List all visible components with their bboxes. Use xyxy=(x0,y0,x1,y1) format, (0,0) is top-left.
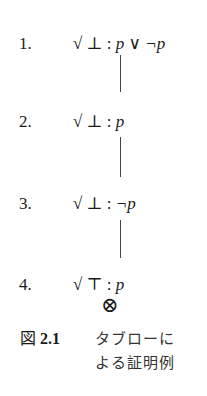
node-formula: √ ⊥ : ¬p xyxy=(73,193,136,215)
caption-line-1: タブローに xyxy=(95,327,175,351)
edge-2-3 xyxy=(120,137,121,177)
truth-sign: ⊥ xyxy=(87,194,103,213)
check-mark-icon: √ xyxy=(73,275,82,294)
caption-prefix: 図 xyxy=(20,329,36,348)
tableau-node-1: 1. √ ⊥ : p ∨ ¬p xyxy=(0,33,207,55)
closed-branch-icon: ⊗ xyxy=(101,294,119,316)
node-formula: √ ⊥ : p ∨ ¬p xyxy=(73,33,165,55)
check-mark-icon: √ xyxy=(73,194,82,213)
formula-text: ¬p xyxy=(116,194,136,213)
formula-text: p ∨ ¬p xyxy=(116,34,165,53)
tableau-node-3: 3. √ ⊥ : ¬p xyxy=(0,193,207,215)
edge-3-4 xyxy=(120,220,121,258)
separator: : xyxy=(107,112,112,131)
node-number: 3. xyxy=(19,193,32,215)
check-mark-icon: √ xyxy=(73,34,82,53)
caption-line-2: よる証明例 xyxy=(95,351,175,375)
separator: : xyxy=(107,194,112,213)
node-number: 4. xyxy=(19,274,32,296)
edge-1-2 xyxy=(120,55,121,92)
separator: : xyxy=(107,275,112,294)
node-number: 1. xyxy=(19,33,32,55)
node-number: 2. xyxy=(19,111,32,133)
truth-sign: ⊥ xyxy=(87,112,103,131)
node-formula: √ ⊥ : p xyxy=(73,111,124,133)
truth-sign: ⊥ xyxy=(87,34,103,53)
separator: : xyxy=(107,34,112,53)
truth-sign: ⊤ xyxy=(87,275,103,294)
caption-number: 2.1 xyxy=(40,330,60,347)
figure-caption-label: 図 2.1 xyxy=(20,327,60,351)
figure-caption-text: タブローに よる証明例 xyxy=(95,327,175,375)
formula-text: p xyxy=(116,112,125,131)
tableau-node-2: 2. √ ⊥ : p xyxy=(0,111,207,133)
formula-text: p xyxy=(116,275,125,294)
check-mark-icon: √ xyxy=(73,112,82,131)
